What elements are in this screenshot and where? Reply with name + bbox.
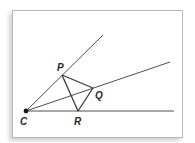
ray-cp (26, 35, 103, 111)
label-q: Q (95, 90, 103, 101)
label-r: R (74, 116, 82, 127)
segment-qr (78, 88, 93, 111)
point-c-dot (24, 109, 29, 114)
label-c: C (20, 116, 28, 127)
ray-cq (26, 62, 170, 111)
label-p: P (57, 62, 64, 73)
geometry-diagram: P Q C R (0, 0, 195, 143)
